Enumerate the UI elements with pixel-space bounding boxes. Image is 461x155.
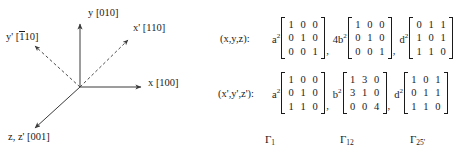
- axis-z-line: [35, 87, 80, 128]
- matrix-coefficient-base: 4b: [333, 33, 344, 44]
- matrix-row: 101: [408, 73, 444, 87]
- matrix-cell: 1: [425, 45, 437, 59]
- matrix-grid: 100010001: [285, 18, 321, 59]
- matrix-row-unprimed: (x,y,z): a2100010001,4b2100010001,d20111…: [218, 14, 453, 62]
- axis-label-x-symbol: x: [148, 77, 153, 88]
- matrix-row: 110: [285, 100, 321, 114]
- matrix-row-primed: (x',y',z'): a2100010110,b2130310004,d210…: [218, 69, 448, 117]
- matrix-row: 310: [347, 86, 383, 100]
- matrix-cell: 1: [352, 18, 364, 32]
- matrix-coefficient: d2: [399, 32, 408, 45]
- matrix-cell: 1: [309, 45, 321, 59]
- matrix-cell: 1: [285, 73, 297, 87]
- matrix-cell: 1: [285, 100, 297, 114]
- matrix-cell: 0: [437, 45, 449, 59]
- matrix-term: b2130310004,: [333, 72, 394, 115]
- irrep-subscript: 25': [416, 138, 425, 147]
- matrix-cell: 3: [359, 73, 371, 87]
- axis-label-x: x [100]: [148, 78, 179, 89]
- matrix-row: 100: [352, 18, 388, 32]
- matrix-bracket: 100010001: [281, 17, 325, 60]
- matrix-grid: 130310004: [347, 73, 383, 114]
- matrix-cell: 0: [309, 100, 321, 114]
- axis-y-prime-line: [35, 46, 80, 87]
- matrix-bracket: 011101110: [409, 17, 453, 60]
- axis-x-prime-line: [80, 40, 128, 87]
- axis-label-y-prime-symbol: y': [6, 31, 13, 42]
- matrix-cell: 0: [309, 73, 321, 87]
- matrix-cell: 0: [285, 45, 297, 59]
- matrix-bracket: 100010001: [348, 17, 392, 60]
- matrix-cell: 1: [413, 45, 425, 59]
- matrix-cell: 0: [371, 73, 383, 87]
- matrix-cell: 1: [432, 86, 444, 100]
- matrix-cell: 0: [359, 100, 371, 114]
- irrep-caption-25p: Γ25': [410, 133, 425, 145]
- matrix-cell: 1: [413, 31, 425, 45]
- matrix-cell: 1: [437, 31, 449, 45]
- matrix-cell: 0: [364, 45, 376, 59]
- matrix-cell: 0: [347, 100, 359, 114]
- matrix-coefficient-exponent: 2: [399, 87, 403, 95]
- matrix-row: 004: [347, 100, 383, 114]
- matrix-cell: 0: [364, 18, 376, 32]
- matrix-cell: 0: [285, 31, 297, 45]
- matrix-cell: 1: [347, 73, 359, 87]
- matrix-cell: 1: [432, 73, 444, 87]
- axis-label-y-prime-index-rest: 10]: [25, 31, 39, 42]
- irrep-caption-1: Γ1: [265, 133, 275, 145]
- axis-label-x-index: [100]: [156, 77, 179, 88]
- matrix-cell: 1: [297, 31, 309, 45]
- matrix-row: 010: [285, 86, 321, 100]
- matrix-expressions-panel: (x,y,z): a2100010001,4b2100010001,d20111…: [218, 0, 461, 155]
- matrix-cell: 0: [309, 86, 321, 100]
- matrix-cell: 0: [420, 73, 432, 87]
- matrix-cell: 0: [309, 31, 321, 45]
- irrep-subscript: 12: [346, 138, 354, 147]
- matrix-cell: 0: [297, 73, 309, 87]
- matrix-cell: 0: [371, 86, 383, 100]
- matrix-cell: 0: [413, 18, 425, 32]
- matrix-cell: 1: [408, 100, 420, 114]
- matrix-grid: 100010110: [285, 73, 321, 114]
- matrix-coefficient-exponent: 2: [338, 87, 342, 95]
- matrix-coefficient: a2: [272, 32, 280, 45]
- matrix-coefficient: a2: [272, 87, 280, 100]
- matrix-coefficient-exponent: 2: [277, 32, 281, 40]
- matrix-cell: 1: [297, 86, 309, 100]
- matrix-coefficient: d2: [394, 87, 403, 100]
- matrix-cell: 1: [364, 31, 376, 45]
- matrix-separator-comma: ,: [392, 45, 400, 59]
- matrix-cell: 0: [297, 45, 309, 59]
- matrix-cell: 1: [408, 73, 420, 87]
- matrix-cell: 1: [425, 18, 437, 32]
- matrix-cell: 0: [376, 31, 388, 45]
- matrix-cell: 0: [408, 86, 420, 100]
- matrix-row: 001: [285, 45, 321, 59]
- matrix-coefficient-exponent: 2: [405, 32, 409, 40]
- figure-root: y [010] x' [110] y' [110] x [100] z, z' …: [0, 0, 461, 155]
- matrix-term: d2101011110: [394, 72, 448, 115]
- matrix-separator-comma: ,: [325, 100, 333, 114]
- axis-label-y-prime: y' [110]: [6, 30, 39, 43]
- matrix-row: 110: [413, 45, 449, 59]
- matrix-row: 010: [285, 31, 321, 45]
- matrix-row: 110: [408, 100, 444, 114]
- matrix-cell: 1: [437, 18, 449, 32]
- axis-label-x-prime: x' [110]: [133, 23, 165, 34]
- matrix-row: 130: [347, 73, 383, 87]
- matrix-row-unprimed-label: (x,y,z):: [218, 33, 272, 44]
- matrix-row: 100: [285, 73, 321, 87]
- irrep-caption-12: Γ12: [340, 133, 354, 145]
- matrix-row: 001: [352, 45, 388, 59]
- irrep-subscript: 1: [271, 138, 275, 147]
- axis-label-z: z, z' [001]: [8, 132, 50, 143]
- matrix-cell: 1: [359, 86, 371, 100]
- matrix-separator-comma: ,: [325, 45, 333, 59]
- matrix-row: 101: [413, 31, 449, 45]
- matrix-cell: 1: [420, 100, 432, 114]
- axis-label-y-index: [010]: [96, 7, 119, 18]
- matrix-row-primed-label: (x',y',z'):: [218, 88, 272, 99]
- matrix-coefficient-exponent: 2: [343, 32, 347, 40]
- matrix-cell: 4: [371, 100, 383, 114]
